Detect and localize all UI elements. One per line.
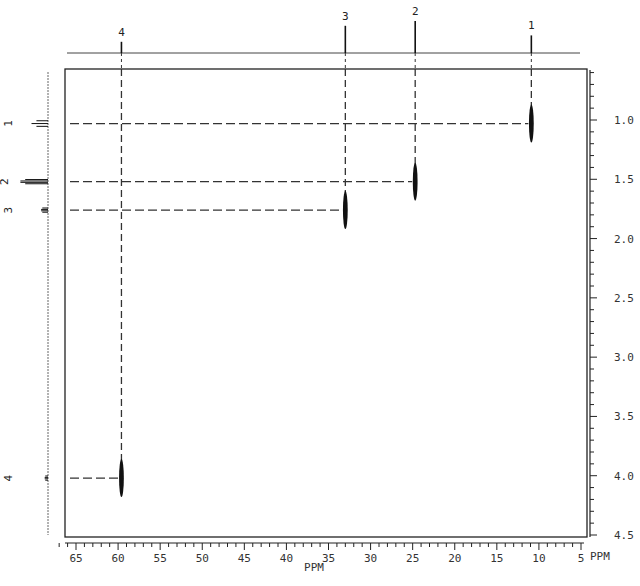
x-tick-label: 60 (111, 552, 124, 565)
y-tick-label: 3.0 (614, 351, 634, 364)
carbon-peak-label: 3 (342, 10, 349, 23)
plot-frame (65, 69, 587, 537)
proton-peak-label: 3 (2, 207, 15, 214)
cross-peaks (119, 105, 534, 498)
y-axis-title: PPM (590, 550, 610, 563)
x-axis-title: PPM (304, 561, 324, 574)
carbon-peak-label: 2 (412, 5, 419, 18)
carbon-peak-label: 1 (528, 19, 535, 32)
y-tick-label: 4.0 (614, 470, 634, 483)
cross-peak-contour (529, 105, 534, 143)
top-carbon-projection: 4321 (67, 5, 580, 53)
x-tick-label: 30 (364, 552, 377, 565)
y-tick-label: 1.5 (614, 173, 634, 186)
x-tick-label: 40 (280, 552, 293, 565)
y-tick-label: 3.5 (614, 410, 634, 423)
proton-peak-label: 1 (2, 120, 15, 127)
cross-peak-contour (119, 459, 124, 497)
x-tick-label: 55 (154, 552, 167, 565)
correlation-guide-lines (70, 53, 531, 478)
x-tick-label: 50 (196, 552, 209, 565)
x-tick-label: 10 (532, 552, 545, 565)
x-tick-label: 65 (69, 552, 82, 565)
x-tick-label: 45 (238, 552, 251, 565)
cross-peak-contour (413, 163, 418, 201)
x-tick-label: 25 (406, 552, 419, 565)
carbon-peak-label: 4 (118, 26, 125, 39)
x-tick-label: 20 (448, 552, 461, 565)
y-axis: 1.01.52.02.53.03.54.04.5 (590, 70, 634, 542)
left-proton-projection: 1234 (0, 72, 48, 535)
x-tick-label: 15 (490, 552, 503, 565)
y-tick-label: 2.0 (614, 233, 634, 246)
cross-peak-contour (343, 191, 348, 229)
x-tick-label: 5 (578, 552, 585, 565)
y-tick-label: 4.5 (614, 529, 634, 542)
hetcor-chart: 4321 1234 6560555045403530252015105 1.01… (0, 0, 640, 586)
y-tick-label: 2.5 (614, 292, 634, 305)
proton-peak-label: 4 (2, 474, 15, 481)
y-tick-label: 1.0 (614, 114, 634, 127)
proton-peak-label: 2 (0, 178, 11, 185)
